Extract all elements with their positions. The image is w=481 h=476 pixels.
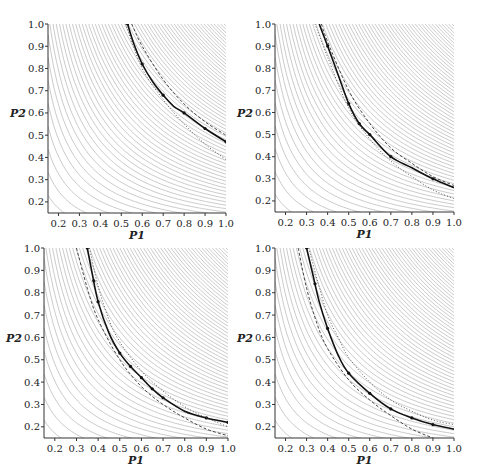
y-tick-label: 0.6 <box>28 107 44 118</box>
panel-top-left: 0.20.30.40.50.60.70.80.91.00.20.30.40.50… <box>9 0 234 242</box>
data-marker <box>92 279 95 282</box>
x-tick-label: 0.6 <box>134 218 150 229</box>
x-axis-label: P1 <box>356 454 373 467</box>
x-tick-label: 0.4 <box>320 443 336 454</box>
y-tick-label: 1.0 <box>28 19 44 30</box>
y-tick-label: 0.7 <box>24 310 40 321</box>
data-marker <box>326 327 329 330</box>
y-tick-label: 0.9 <box>255 265 271 276</box>
x-tick-label: 0.9 <box>425 217 441 228</box>
y-tick-label: 0.6 <box>255 107 271 118</box>
x-tick-label: 0.6 <box>133 443 149 454</box>
data-marker <box>431 177 434 180</box>
y-tick-label: 0.3 <box>28 174 44 185</box>
figure: 0.20.30.40.50.60.70.80.91.00.20.30.40.50… <box>0 0 481 476</box>
x-tick-label: 0.3 <box>299 443 315 454</box>
x-tick-label: 0.2 <box>51 218 67 229</box>
data-marker <box>368 133 371 136</box>
x-tick-label: 1.0 <box>446 443 462 454</box>
y-tick-label: 0.2 <box>28 196 44 207</box>
y-tick-label: 0.4 <box>255 377 271 388</box>
x-axis-label: P1 <box>127 454 144 467</box>
y-tick-label: 1.0 <box>24 243 40 254</box>
panel-top-right: 0.20.30.40.50.60.70.80.91.00.20.30.40.50… <box>236 0 462 241</box>
y-axis-label: P2 <box>9 107 26 120</box>
y-tick-label: 0.5 <box>24 354 40 365</box>
x-tick-label: 0.6 <box>362 217 378 228</box>
data-marker <box>224 140 227 143</box>
y-tick-label: 0.4 <box>24 377 40 388</box>
x-tick-label: 0.3 <box>69 443 85 454</box>
y-tick-label: 0.4 <box>28 152 44 163</box>
y-tick-label: 0.2 <box>255 195 271 206</box>
data-marker <box>305 246 308 249</box>
x-tick-label: 0.5 <box>113 218 129 229</box>
x-tick-label: 0.7 <box>155 218 171 229</box>
x-tick-label: 0.4 <box>320 217 336 228</box>
contour-lines <box>275 0 454 239</box>
y-tick-label: 0.5 <box>255 354 271 365</box>
x-tick-label: 0.4 <box>92 218 108 229</box>
y-tick-label: 0.8 <box>255 287 271 298</box>
y-tick-label: 0.7 <box>255 310 271 321</box>
y-tick-label: 0.4 <box>255 151 271 162</box>
y-axis-label: P2 <box>236 107 253 120</box>
x-tick-label: 1.0 <box>220 443 236 454</box>
x-tick-label: 0.3 <box>299 217 315 228</box>
x-tick-label: 0.3 <box>71 218 87 229</box>
y-tick-label: 0.9 <box>24 265 40 276</box>
x-tick-label: 1.0 <box>446 217 462 228</box>
y-tick-label: 0.8 <box>28 63 44 74</box>
data-marker <box>118 351 121 354</box>
y-tick-label: 1.0 <box>255 243 271 254</box>
x-tick-label: 0.4 <box>90 443 106 454</box>
x-tick-label: 0.8 <box>177 443 193 454</box>
x-tick-label: 0.8 <box>404 443 420 454</box>
series-dashed <box>76 248 228 436</box>
y-tick-label: 0.2 <box>24 421 40 432</box>
x-tick-label: 0.9 <box>197 218 213 229</box>
data-marker <box>162 94 165 97</box>
data-marker <box>141 62 144 65</box>
data-marker <box>431 423 434 426</box>
y-tick-label: 0.6 <box>24 332 40 343</box>
y-axis-label: P2 <box>236 332 253 345</box>
y-tick-label: 0.3 <box>255 173 271 184</box>
x-tick-label: 0.2 <box>278 443 294 454</box>
data-marker <box>410 416 413 419</box>
y-tick-label: 0.7 <box>255 85 271 96</box>
x-axis-label: P1 <box>356 228 373 241</box>
data-marker <box>226 421 229 424</box>
x-tick-label: 0.5 <box>341 443 357 454</box>
x-tick-label: 0.6 <box>362 443 378 454</box>
x-axis-label: P1 <box>128 229 145 242</box>
x-tick-label: 1.0 <box>218 218 234 229</box>
y-axis-label: P2 <box>5 332 22 345</box>
data-marker <box>97 300 100 303</box>
x-tick-label: 0.2 <box>278 217 294 228</box>
y-tick-label: 0.6 <box>255 332 271 343</box>
x-tick-label: 0.5 <box>112 443 128 454</box>
y-tick-label: 0.8 <box>255 63 271 74</box>
x-tick-label: 0.2 <box>47 443 63 454</box>
y-tick-label: 0.3 <box>255 399 271 410</box>
data-marker <box>129 365 132 368</box>
series-group <box>125 22 227 159</box>
contour-lines <box>48 0 226 240</box>
x-tick-label: 0.9 <box>425 443 441 454</box>
data-marker <box>140 376 143 379</box>
data-marker <box>161 396 164 399</box>
y-tick-label: 0.5 <box>255 129 271 140</box>
y-tick-label: 0.2 <box>255 421 271 432</box>
x-tick-label: 0.8 <box>404 217 420 228</box>
data-marker <box>203 127 206 130</box>
data-marker <box>389 155 392 158</box>
x-tick-label: 0.8 <box>176 218 192 229</box>
data-marker <box>313 282 316 285</box>
y-tick-label: 0.8 <box>24 287 40 298</box>
y-tick-label: 0.7 <box>28 85 44 96</box>
x-tick-label: 0.7 <box>155 443 171 454</box>
data-marker <box>126 22 129 25</box>
data-marker <box>389 407 392 410</box>
y-tick-label: 0.9 <box>28 41 44 52</box>
